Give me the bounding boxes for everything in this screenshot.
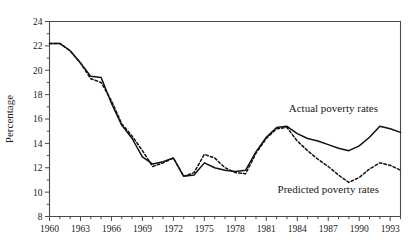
y-tick-label: 22 — [33, 41, 43, 51]
y-tick-label: 24 — [33, 17, 43, 27]
x-tick-label: 1987 — [319, 224, 338, 234]
y-axis-tick-labels: 81012141618202224 — [33, 17, 43, 222]
x-axis-tick-labels: 1960196319661969197219751978198119841987… — [40, 224, 400, 234]
series-annotations: Actual poverty ratesPredicted poverty ra… — [278, 102, 379, 196]
x-tick-label: 1960 — [40, 224, 59, 234]
y-tick-label: 20 — [33, 66, 43, 76]
y-tick-label: 10 — [33, 188, 43, 198]
x-tick-label: 1993 — [381, 224, 400, 234]
y-tick-label: 12 — [33, 163, 43, 173]
poverty-rates-line-chart: 81012141618202224 1960196319661969197219… — [0, 0, 419, 246]
x-tick-label: 1975 — [195, 224, 214, 234]
x-tick-label: 1963 — [71, 224, 90, 234]
y-axis-title: Percentage — [3, 95, 15, 143]
x-tick-label: 1978 — [226, 224, 245, 234]
x-tick-label: 1990 — [350, 224, 369, 234]
y-tick-label: 14 — [33, 139, 43, 149]
y-tick-label: 16 — [33, 114, 43, 124]
x-tick-label: 1972 — [164, 224, 183, 234]
chart-page: 81012141618202224 1960196319661969197219… — [0, 0, 419, 246]
y-tick-label: 18 — [33, 90, 43, 100]
x-tick-label: 1981 — [257, 224, 276, 234]
x-tick-label: 1969 — [133, 224, 152, 234]
y-axis-ticks — [45, 22, 50, 217]
series-annotation-label: Actual poverty rates — [289, 102, 378, 114]
y-tick-label: 8 — [38, 212, 43, 222]
x-tick-label: 1966 — [102, 224, 121, 234]
x-axis-ticks — [50, 217, 401, 222]
series-annotation-label: Predicted poverty rates — [278, 183, 379, 195]
x-tick-label: 1984 — [288, 224, 307, 234]
